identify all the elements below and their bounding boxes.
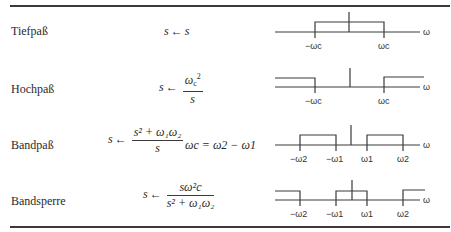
axis-label: ω <box>423 140 430 150</box>
diagram-hochpass: ω −ωc ωc <box>270 60 451 110</box>
formula-lhs: s <box>108 132 113 146</box>
row-label-bandpass: Bandpaß <box>11 138 54 153</box>
fraction: sω²cs² + ω₁ω₂ <box>167 181 215 210</box>
formula-tiefpass: s←s <box>164 24 189 39</box>
formula-lhs: s <box>164 24 169 38</box>
formula-bandpass: s←s² + ω₁ω₂s <box>108 126 183 155</box>
row-label-hochpass: Hochpaß <box>11 82 54 97</box>
row-label-tiefpass: Tiefpaß <box>11 24 48 39</box>
fraction: s² + ω₁ω₂s <box>132 126 184 155</box>
tick-label: ω1 <box>361 154 373 164</box>
diagram-bandpass: ω −ω2 −ω1 ω1 ω2 <box>270 118 451 168</box>
formula-bandsperre: s←sω²cs² + ω₁ω₂ <box>143 181 214 210</box>
tick-label: ωc <box>378 41 390 51</box>
formula-rhs: s <box>185 24 190 38</box>
formula-lhs: s <box>159 80 164 94</box>
left-arrow-icon: ← <box>166 80 178 94</box>
formula-hochpass: s←ωc2s <box>159 70 203 106</box>
tick-label: −ω1 <box>326 154 343 164</box>
row-label-bandsperre: Bandsperre <box>11 194 66 209</box>
tick-label: −ωc <box>305 41 322 51</box>
tick-label: ω1 <box>361 209 373 219</box>
left-arrow-icon: ← <box>150 187 162 201</box>
axis-label: ω <box>423 27 430 37</box>
cutoff-note: ωc = ω2 − ω1 <box>185 138 256 153</box>
tick-label: −ωc <box>305 96 322 106</box>
axis-label: ω <box>423 82 430 92</box>
tick-label: −ω2 <box>290 209 307 219</box>
left-arrow-icon: ← <box>171 24 183 38</box>
tick-label: ωc <box>378 96 390 106</box>
tick-label: ω2 <box>397 209 409 219</box>
tick-label: −ω1 <box>326 209 343 219</box>
axis-label: ω <box>423 195 430 205</box>
formula-lhs: s <box>143 187 148 201</box>
diagram-bandsperre: ω −ω2 −ω1 ω1 ω2 <box>270 172 451 222</box>
tick-label: −ω2 <box>290 154 307 164</box>
fraction: ωc2s <box>183 70 203 106</box>
diagram-tiefpass: ω −ωc ωc <box>270 5 451 55</box>
tick-label: ω2 <box>397 154 409 164</box>
left-arrow-icon: ← <box>115 132 127 146</box>
bottom-rule <box>10 226 450 228</box>
